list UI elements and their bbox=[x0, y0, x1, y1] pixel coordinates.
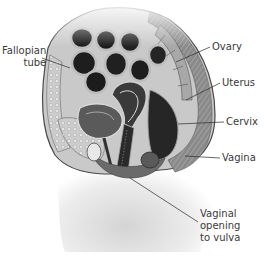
label-line: Uterus bbox=[222, 77, 255, 89]
label-line: opening bbox=[200, 220, 240, 232]
label-line: Fallopian bbox=[2, 45, 46, 57]
label-line: Ovary bbox=[212, 41, 242, 53]
label-ovary: Ovary bbox=[212, 41, 242, 53]
label-vagina: Vagina bbox=[222, 152, 256, 164]
label-line: Vagina bbox=[222, 152, 256, 164]
label-uterus: Uterus bbox=[222, 77, 255, 89]
label-line: Vaginal bbox=[200, 208, 240, 220]
label-line: to vulva bbox=[200, 232, 240, 244]
label-line: tube bbox=[2, 57, 46, 69]
label-fallopian-tube: Fallopian tube bbox=[2, 45, 46, 69]
label-vaginal-opening: Vaginal opening to vulva bbox=[200, 208, 240, 244]
label-line: Cervix bbox=[226, 116, 258, 128]
label-cervix: Cervix bbox=[226, 116, 258, 128]
